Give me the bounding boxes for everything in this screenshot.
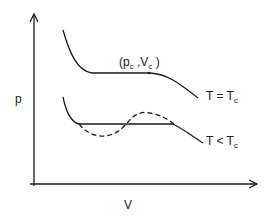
x-axis-label: V [124,199,132,211]
subcritical-isotherm-curve [63,97,203,143]
critical-point-marker [148,72,151,75]
critical-point-label: (pc ,Vc ) [119,56,160,71]
pv-diagram [0,0,270,218]
critical-isotherm-label: T = Tc [206,90,238,105]
y-axis-label: p [15,93,22,105]
subcritical-isotherm-label: T < Tc [206,135,238,150]
